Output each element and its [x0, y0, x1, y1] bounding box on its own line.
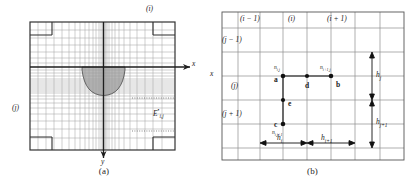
panel-b-node-name-b-sub: i+1,j: [323, 68, 331, 72]
panel-b-column-label-i-plus-1: (i + 1): [327, 15, 347, 23]
panel-b-node-tag-e: e: [288, 100, 291, 108]
panel-a-index-j-label: (j): [12, 104, 19, 112]
panel-b-dimension-h-i-sub: i: [281, 138, 282, 144]
panel-b-node-name-a: ni,j: [274, 65, 280, 73]
panel-b-dimension-label-h-j: hj: [376, 71, 381, 81]
panel-b-node-name-a-sub: i,j: [277, 68, 280, 72]
panel-b-node-tag-c: c: [274, 121, 277, 129]
panel-b-row-label-j-plus-1: (j + 1): [222, 110, 242, 118]
panel-a: (i) (j) x y E•i,j (a): [0, 0, 208, 190]
panel-b-dimension-h-j1-sub: j+1: [380, 122, 388, 128]
panel-a-caption: (a): [0, 166, 208, 176]
node-d: [305, 74, 309, 78]
panel-b-row-label-j-minus-1: (j − 1): [222, 36, 242, 44]
panel-b-node-tag-d: d: [305, 82, 309, 90]
panel-b-column-label-i-minus-1: (i − 1): [240, 15, 260, 23]
panel-a-cell-label-sub: i,j: [159, 113, 163, 119]
node-c: [281, 122, 286, 127]
panel-b-row-label-j: (j): [231, 82, 238, 90]
panel-b-x-axis-label: x: [210, 70, 213, 78]
panel-b-node-name-b: ni+1,j: [320, 65, 331, 73]
panel-b-node-tag-b: b: [336, 81, 340, 89]
node-b: [329, 74, 334, 79]
figure-root: (i) (j) x y E•i,j (a): [0, 0, 417, 190]
panel-b-dimension-label-h-i-plus-1: hi+1: [321, 134, 332, 144]
node-a: [281, 74, 286, 79]
panel-a-y-axis-label: y: [101, 158, 104, 166]
panel-b-dimension-h-j-sub: j: [380, 75, 381, 81]
panel-b-caption: (b): [208, 166, 417, 176]
panel-a-index-i-label: (i): [146, 5, 153, 13]
panel-b-column-label-i: (i): [288, 15, 295, 23]
panel-b-node-tag-a: a: [274, 76, 278, 84]
panel-b-dimension-h-i1-sub: i+1: [325, 138, 333, 144]
panel-b-horizontal-dimension-arrows: [260, 141, 355, 146]
node-e: [281, 98, 285, 102]
panel-b-horizontal-gridlines: [222, 28, 404, 148]
panel-b-dimension-label-h-i: hi: [277, 134, 282, 144]
panel-b-frame: [222, 12, 404, 160]
panel-b: x (i − 1) (i) (i + 1) (j − 1) (j) (j + 1…: [208, 0, 417, 190]
panel-a-x-axis-label: x: [192, 60, 195, 68]
panel-b-graphic: [208, 0, 417, 190]
panel-a-cell-label: E•i,j: [153, 108, 164, 119]
panel-b-dimension-label-h-j-plus-1: hj+1: [376, 118, 387, 128]
